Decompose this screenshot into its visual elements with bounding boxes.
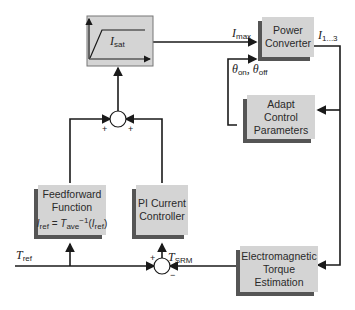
saturation-label: Isat <box>110 34 125 49</box>
pi-current-controller-block: PI Current Controller <box>136 185 188 235</box>
torque-estimation-block: Electromagnetic Torque Estimation <box>240 246 318 292</box>
summing-junction-top <box>110 111 126 127</box>
i13-line <box>313 46 340 265</box>
adapt-control-parameters-block: Adapt Control Parameters <box>247 95 315 139</box>
sign-top-left: + <box>102 124 107 134</box>
sign-bottom-minus: − <box>170 270 175 280</box>
sign-top-right: + <box>128 124 133 134</box>
feedforward-equation: Iref = Tave−1(Iref) <box>37 214 107 233</box>
tref-label: Tref <box>16 248 32 263</box>
feedforward-function-block: Feedforward Function Iref = Tave−1(Iref) <box>38 185 106 235</box>
imax-label: Imax <box>232 26 251 41</box>
tsrm-label: TSRM <box>168 250 192 265</box>
sign-bottom-plus: + <box>150 253 155 263</box>
power-converter-block: Power Converter <box>262 17 314 57</box>
theta-label: θon, θoff <box>232 62 267 77</box>
i13-label: I1...3 <box>318 28 338 43</box>
